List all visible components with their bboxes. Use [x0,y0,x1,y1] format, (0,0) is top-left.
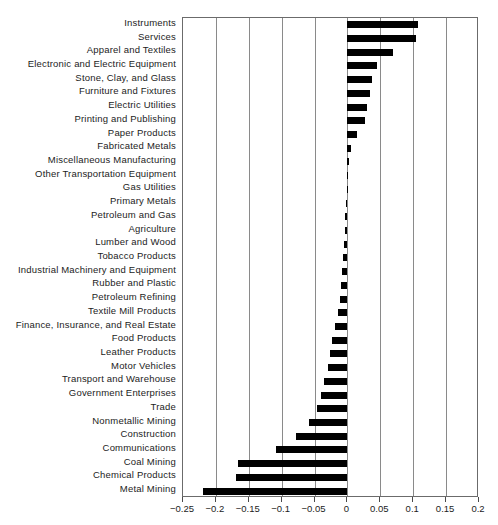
axis-tick-label: −0.2 [205,503,224,514]
bar [347,62,377,69]
category-label: Paper Products [108,128,176,138]
horizontal-bar-chart: InstrumentsServicesApparel and TextilesE… [0,0,498,525]
bar [347,131,357,138]
bar [328,364,348,371]
bar [317,405,347,412]
category-label: Transport and Warehouse [62,374,176,384]
axis-tick-label: 0.2 [471,503,484,514]
category-label: Electric Utilities [108,100,176,110]
category-label: Stone, Clay, and Glass [75,73,176,83]
category-label: Petroleum and Gas [91,210,176,220]
bar [236,474,348,481]
bar [347,158,348,165]
category-label: Petroleum Refining [92,292,176,302]
axis-tick-label: −0.25 [170,503,194,514]
category-label: Nonmetallic Mining [92,416,176,426]
category-label: Agriculture [129,224,177,234]
bar [347,90,370,97]
bar-row [183,237,477,251]
bar [347,35,415,42]
bar [347,21,417,28]
axis-tick [346,497,347,502]
bar [321,392,347,399]
category-label: Trade [151,402,176,412]
axis-tick-label: −0.1 [271,503,290,514]
axis-tick-label: 0.1 [406,503,419,514]
category-label: Motor Vehicles [111,361,176,371]
bar [347,117,365,124]
bar-row [183,333,477,347]
bar-row [183,114,477,128]
axis-tick [215,497,216,502]
category-label: Apparel and Textiles [87,45,176,55]
bar-row [183,306,477,320]
category-label: Other Transportation Equipment [35,169,176,179]
axis-tick [379,497,380,502]
category-label: Fabricated Metals [97,141,176,151]
bar-row [183,265,477,279]
bar [330,350,347,357]
bar [340,296,348,303]
bar [347,172,348,179]
bar [347,104,367,111]
bar-row [183,484,477,498]
category-label: Government Enterprises [69,388,176,398]
bar-row [183,155,477,169]
category-label: Textile Mill Products [88,306,176,316]
axis-tick [478,497,479,502]
bar [347,186,348,193]
category-label: Chemical Products [93,470,176,480]
bar [346,200,347,207]
bar [296,433,347,440]
bar-row [183,457,477,471]
axis-tick [412,497,413,502]
bar [203,488,347,495]
bar [338,309,348,316]
bar [342,268,347,275]
bar-row [183,320,477,334]
bar-row [183,210,477,224]
axis-tick-label: −0.05 [302,503,326,514]
bar [238,460,347,467]
bar [345,213,347,220]
category-label: Instruments [124,18,176,28]
axis-tick [314,497,315,502]
bar [276,446,348,453]
category-label: Metal Mining [120,484,176,494]
bar-row [183,196,477,210]
bar-row [183,443,477,457]
bar-series [183,18,477,496]
category-label: Food Products [112,333,176,343]
bar-row [183,18,477,32]
category-axis-labels: InstrumentsServicesApparel and TextilesE… [0,17,176,497]
bar-row [183,416,477,430]
bar-row [183,32,477,46]
category-label: Gas Utilities [123,182,176,192]
category-label: Construction [120,429,176,439]
value-axis: −0.25−0.2−0.15−0.1−0.0500.050.10.150.2 [182,497,478,525]
bar-row [183,141,477,155]
axis-tick [281,497,282,502]
category-label: Industrial Machinery and Equipment [18,265,176,275]
bar-row [183,388,477,402]
axis-tick-label: 0.05 [370,503,389,514]
bar [343,254,347,261]
plot-area [182,17,478,497]
bar [309,419,347,426]
category-label: Services [138,32,176,42]
category-label: Tobacco Products [97,251,176,261]
bar-row [183,402,477,416]
axis-tick-label: −0.15 [236,503,260,514]
bar-row [183,59,477,73]
bar-row [183,375,477,389]
bar-row [183,128,477,142]
bar [347,145,351,152]
bar-row [183,347,477,361]
bar-row [183,169,477,183]
bar [332,337,347,344]
bar-row [183,471,477,485]
bar-row [183,279,477,293]
category-label: Lumber and Wood [95,237,176,247]
bar-row [183,45,477,59]
category-label: Electronic and Electric Equipment [28,59,176,69]
